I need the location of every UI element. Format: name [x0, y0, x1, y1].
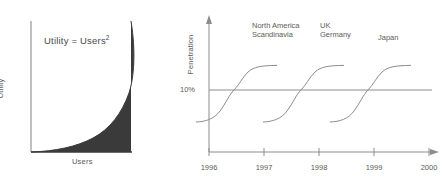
utility-formula-annotation: Utility = Users2 — [44, 35, 110, 46]
penetration-y-axis-label: Penetration — [187, 35, 196, 74]
curve-label-line2: Germany — [320, 31, 351, 40]
penetration-curve-north-america-scandinavia — [196, 65, 277, 122]
penetration-x-axis-arrow-icon — [430, 149, 439, 155]
penetration-chart-panel: Penetration 10% North America Scandinavi… — [180, 0, 448, 184]
curve-label-line1: Japan — [378, 34, 398, 43]
penetration-y-axis-arrow-icon — [206, 15, 212, 24]
penetration-curve-japan — [330, 65, 411, 122]
utility-chart-panel: Utility = Users2 Utility Users — [0, 0, 180, 184]
curve-label-line2: Scandinavia — [252, 31, 300, 40]
x-tick-label-1997: 1997 — [256, 163, 273, 172]
penetration-threshold-label: 10% — [180, 86, 195, 95]
x-tick-label-1998: 1998 — [311, 163, 328, 172]
penetration-chart-svg — [180, 0, 448, 184]
x-tick-label-1999: 1999 — [366, 163, 383, 172]
figure-root: Utility = Users2 Utility Users — [0, 0, 448, 184]
utility-x-axis-label: Users — [72, 158, 93, 167]
utility-formula-exponent: 2 — [106, 34, 110, 41]
utility-formula-text: Utility = Users — [44, 35, 106, 46]
curve-label-north-america-scandinavia: North America Scandinavia — [252, 22, 300, 40]
x-tick-label-2000: 2000 — [421, 163, 438, 172]
x-tick-label-1996: 1996 — [201, 163, 218, 172]
penetration-curve-uk-germany — [263, 65, 344, 122]
curve-label-uk-germany: UK Germany — [320, 22, 351, 40]
curve-label-japan: Japan — [378, 34, 398, 43]
utility-y-axis-label: Utility — [0, 79, 6, 99]
